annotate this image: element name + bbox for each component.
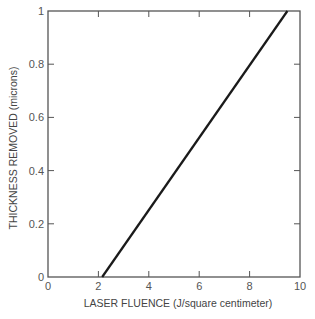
- y-tick-label: 0: [38, 271, 44, 283]
- y-tick-label: 1: [38, 5, 44, 17]
- x-tick-label: 8: [247, 280, 253, 292]
- x-axis-ticks: 0246810: [45, 11, 306, 292]
- x-tick-label: 0: [45, 280, 51, 292]
- plot-frame: [48, 11, 300, 277]
- y-tick-label: 0.8: [29, 58, 44, 70]
- x-tick-label: 10: [294, 280, 306, 292]
- x-axis-label: LASER FLUENCE (J/square centimeter): [84, 297, 272, 309]
- data-series: [102, 11, 287, 277]
- y-tick-label: 0.4: [29, 165, 44, 177]
- x-tick-label: 2: [95, 280, 101, 292]
- x-tick-label: 6: [196, 280, 202, 292]
- plot-border: [48, 11, 300, 277]
- series-line: [102, 11, 287, 277]
- y-tick-label: 0.2: [29, 218, 44, 230]
- y-axis-label: THICKNESS REMOVED (microns): [7, 67, 19, 230]
- x-tick-label: 4: [146, 280, 152, 292]
- y-axis-ticks: 00.20.40.60.81: [29, 5, 300, 283]
- y-tick-label: 0.6: [29, 111, 44, 123]
- chart: 0246810 00.20.40.60.81 LASER FLUENCE (J/…: [0, 0, 315, 319]
